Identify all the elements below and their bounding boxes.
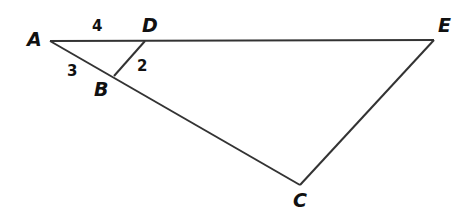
label-E: E [438, 14, 451, 36]
measure-AB: 3 [67, 62, 77, 80]
measure-DB: 2 [137, 57, 147, 75]
label-A: A [25, 28, 42, 50]
triangle-diagram: A D E B C 4 3 2 [0, 0, 467, 212]
label-B: B [94, 78, 108, 100]
label-D: D [142, 14, 158, 36]
label-C: C [293, 189, 307, 211]
segment-EC [300, 40, 434, 185]
segment-AC [50, 41, 300, 185]
segment-AE [50, 40, 434, 41]
measure-AD: 4 [92, 17, 102, 35]
